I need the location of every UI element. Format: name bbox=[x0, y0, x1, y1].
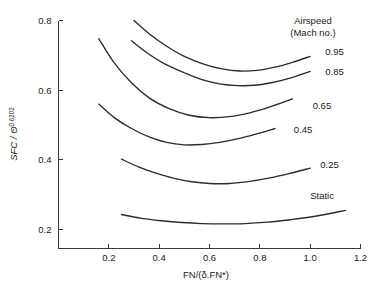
series-label-0.65: 0.65 bbox=[313, 100, 332, 111]
x-tick-label-0.6: 0.6 bbox=[203, 252, 216, 263]
x-tick-label-0.8: 0.8 bbox=[253, 252, 266, 263]
x-axis-ticks: 0.20.40.60.81.01.2 bbox=[102, 244, 367, 263]
y-axis-title-exponent: 0.6202 bbox=[8, 107, 15, 127]
curve-mach-static bbox=[121, 210, 345, 224]
series-label-0.85: 0.85 bbox=[325, 66, 344, 77]
series-labels: 0.950.850.650.450.25Static bbox=[294, 46, 344, 202]
y-axis-ticks: 0.20.40.60.8 bbox=[38, 15, 63, 235]
legend-title-line-1: Airspeed bbox=[294, 15, 332, 26]
chart-figure: 0.20.40.60.81.01.2 0.20.40.60.8 0.950.85… bbox=[0, 0, 387, 292]
data-curves bbox=[99, 21, 346, 224]
curve-mach-0.85 bbox=[131, 41, 310, 86]
y-tick-label-0.6: 0.6 bbox=[38, 85, 51, 96]
svg-text:SFC / Θ0.6202: SFC / Θ0.6202 bbox=[8, 107, 19, 161]
x-tick-label-0.4: 0.4 bbox=[153, 252, 166, 263]
series-label-0.45: 0.45 bbox=[294, 124, 313, 135]
sfc-loop-chart: 0.20.40.60.81.01.2 0.20.40.60.8 0.950.85… bbox=[0, 0, 387, 292]
curve-mach-0.65 bbox=[99, 39, 293, 118]
series-label-0.25: 0.25 bbox=[320, 159, 339, 170]
curve-mach-0.25 bbox=[121, 159, 310, 184]
x-axis-title: FN/(δ.FN*) bbox=[183, 269, 229, 280]
curve-mach-0.95 bbox=[134, 21, 310, 72]
y-axis-title: SFC / Θ0.6202 bbox=[8, 107, 19, 161]
x-tick-label-1.2: 1.2 bbox=[354, 252, 367, 263]
y-tick-label-0.8: 0.8 bbox=[38, 15, 51, 26]
y-tick-label-0.4: 0.4 bbox=[38, 154, 51, 165]
y-axis-title-main: SFC / Θ bbox=[8, 126, 19, 161]
y-tick-label-0.2: 0.2 bbox=[38, 224, 51, 235]
x-tick-label-0.2: 0.2 bbox=[102, 252, 115, 263]
series-label-0.95: 0.95 bbox=[325, 46, 344, 57]
axes bbox=[59, 21, 361, 249]
legend-title: Airspeed (Mach no.) bbox=[290, 15, 335, 38]
legend-title-line-2: (Mach no.) bbox=[290, 27, 335, 38]
series-label-static: Static bbox=[310, 190, 334, 201]
x-tick-label-1.0: 1.0 bbox=[304, 252, 317, 263]
curve-mach-0.45 bbox=[99, 104, 275, 145]
